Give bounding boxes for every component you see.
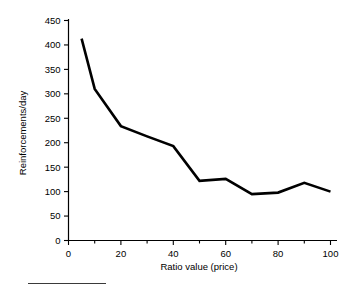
y-tick-label: 350 — [45, 64, 61, 75]
x-tick-label: 60 — [220, 248, 231, 259]
y-tick-label: 0 — [55, 235, 60, 246]
y-tick-label: 100 — [45, 186, 61, 197]
y-axis-tick-labels: 050100150200250300350400450 — [45, 15, 61, 246]
x-tick-label: 80 — [273, 248, 284, 259]
y-tick-label: 400 — [45, 39, 61, 50]
y-tick-label: 450 — [45, 15, 61, 26]
x-axis-ticks — [69, 241, 331, 246]
x-axis-tick-labels: 020406080100 — [66, 248, 339, 259]
y-axis-title: Reinforcements/day — [17, 91, 28, 176]
x-tick-label: 0 — [66, 248, 71, 259]
x-axis-title: Ratio value (price) — [160, 261, 237, 272]
y-tick-label: 50 — [50, 210, 61, 221]
y-tick-label: 250 — [45, 113, 61, 124]
data-series-line — [82, 39, 331, 194]
x-tick-label: 100 — [323, 248, 339, 259]
x-tick-label: 20 — [116, 248, 127, 259]
x-tick-label: 40 — [168, 248, 179, 259]
y-tick-label: 200 — [45, 137, 61, 148]
y-axis-ticks — [64, 21, 69, 241]
y-tick-label: 150 — [45, 162, 61, 173]
chart-figure: Reinforcements/day Ratio value (price) 0… — [0, 0, 353, 295]
y-tick-label: 300 — [45, 88, 61, 99]
axis-frame — [69, 19, 338, 241]
line-chart: Reinforcements/day Ratio value (price) 0… — [0, 0, 353, 295]
